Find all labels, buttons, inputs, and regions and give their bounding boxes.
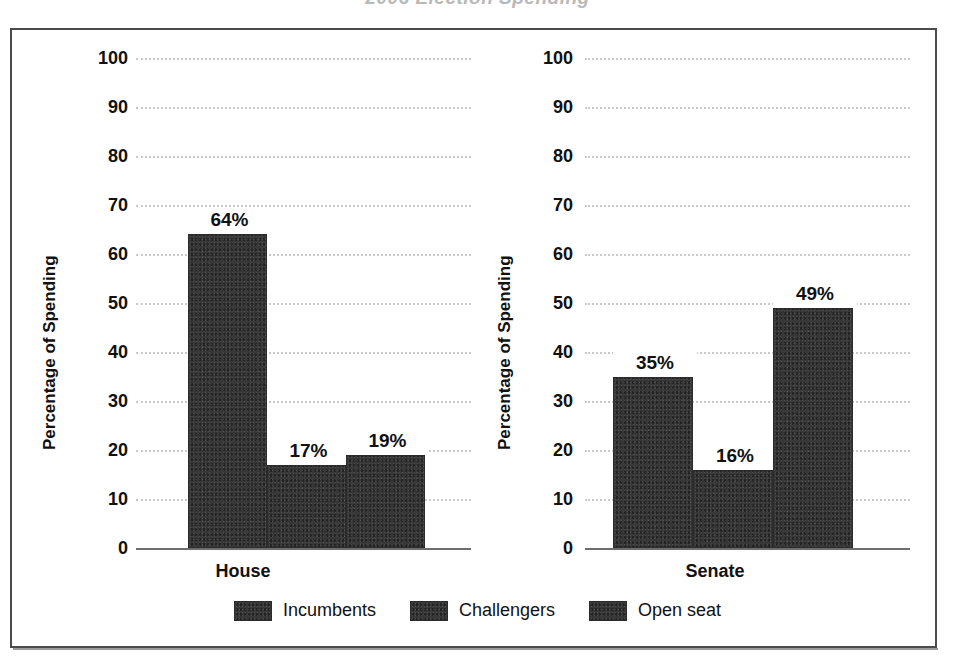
y-tick-senate-50: 50 bbox=[527, 294, 573, 312]
legend-label-0: Incumbents bbox=[283, 600, 376, 621]
legend-item-open-seat[interactable]: Open seat bbox=[589, 600, 721, 621]
bar-senate-incumbents bbox=[613, 377, 693, 549]
y-tick-house-0: 0 bbox=[82, 539, 128, 557]
y-tick-house-40: 40 bbox=[82, 343, 128, 361]
y-tick-senate-60: 60 bbox=[527, 245, 573, 263]
legend-label-2: Open seat bbox=[638, 600, 721, 621]
bar-senate-open-seat bbox=[773, 308, 853, 548]
y-axis-ticks-house: 1009080706050403020100 bbox=[80, 58, 128, 548]
panel-house: Percentage of Spending 10090807060504030… bbox=[18, 58, 468, 558]
legend-label-1: Challengers bbox=[459, 600, 555, 621]
y-tick-house-80: 80 bbox=[82, 147, 128, 165]
bar-house-challengers bbox=[267, 465, 346, 548]
legend-item-incumbents[interactable]: Incumbents bbox=[234, 600, 376, 621]
y-tick-house-30: 30 bbox=[82, 392, 128, 410]
legend-swatch-icon-0 bbox=[234, 601, 272, 621]
y-tick-senate-0: 0 bbox=[527, 539, 573, 557]
y-tick-house-20: 20 bbox=[82, 441, 128, 459]
legend-swatch-icon-2 bbox=[589, 601, 627, 621]
y-tick-house-10: 10 bbox=[82, 490, 128, 508]
y-tick-house-100: 100 bbox=[82, 49, 128, 67]
value-label-house-challengers: 17% bbox=[267, 440, 350, 462]
y-tick-senate-40: 40 bbox=[527, 343, 573, 361]
bar-house-incumbents bbox=[188, 234, 267, 548]
legend-swatch-icon-1 bbox=[410, 601, 448, 621]
chart-legend: IncumbentsChallengersOpen seat bbox=[0, 600, 955, 621]
y-tick-senate-70: 70 bbox=[527, 196, 573, 214]
axis-baseline-senate-0 bbox=[585, 548, 910, 550]
value-label-senate-incumbents: 35% bbox=[613, 352, 697, 374]
axis-baseline-house-0 bbox=[136, 548, 471, 550]
y-tick-house-50: 50 bbox=[82, 294, 128, 312]
bars-house: 64%17%19% bbox=[136, 58, 471, 548]
x-axis-label-senate: Senate bbox=[495, 561, 935, 582]
panel-senate: Percentage of Spending 10090807060504030… bbox=[495, 58, 935, 558]
plot-area: Percentage of Spending 10090807060504030… bbox=[0, 0, 955, 662]
value-label-house-incumbents: 64% bbox=[188, 209, 271, 231]
y-tick-senate-10: 10 bbox=[527, 490, 573, 508]
value-label-senate-open-seat: 49% bbox=[773, 283, 857, 305]
y-tick-senate-20: 20 bbox=[527, 441, 573, 459]
value-label-house-open-seat: 19% bbox=[346, 430, 429, 452]
y-tick-senate-30: 30 bbox=[527, 392, 573, 410]
y-tick-house-70: 70 bbox=[82, 196, 128, 214]
y-tick-senate-100: 100 bbox=[527, 49, 573, 67]
bar-house-open-seat bbox=[346, 455, 425, 548]
y-axis-label-senate: Percentage of Spending bbox=[495, 180, 515, 450]
y-tick-senate-80: 80 bbox=[527, 147, 573, 165]
y-axis-label-house: Percentage of Spending bbox=[40, 180, 60, 450]
bars-senate: 35%16%49% bbox=[585, 58, 910, 548]
y-tick-house-60: 60 bbox=[82, 245, 128, 263]
legend-item-challengers[interactable]: Challengers bbox=[410, 600, 555, 621]
value-label-senate-challengers: 16% bbox=[693, 445, 777, 467]
bar-senate-challengers bbox=[693, 470, 773, 548]
y-tick-senate-90: 90 bbox=[527, 98, 573, 116]
y-axis-ticks-senate: 1009080706050403020100 bbox=[525, 58, 573, 548]
x-axis-label-house: House bbox=[18, 561, 468, 582]
y-tick-house-90: 90 bbox=[82, 98, 128, 116]
